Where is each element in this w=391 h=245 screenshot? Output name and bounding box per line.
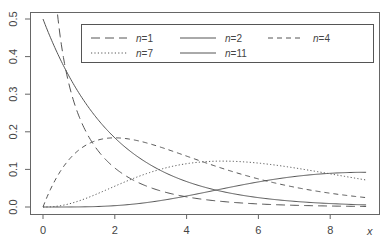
- curve-n-11: [43, 172, 366, 207]
- legend-label-n-4: n=4: [313, 33, 330, 44]
- x-tick-label: 2: [112, 224, 118, 236]
- x-axis: 02468: [40, 214, 333, 236]
- legend-label-n-7: n=7: [136, 48, 153, 59]
- legend-label-n-1: n=1: [136, 33, 153, 44]
- x-axis-label: x: [366, 225, 373, 237]
- y-tick-label: 0.5: [7, 11, 19, 26]
- y-axis: 0.00.10.20.30.40.5: [7, 11, 30, 214]
- y-tick-label: 0.0: [7, 199, 19, 214]
- y-tick-label: 0.3: [7, 87, 19, 102]
- chi-square-density-chart: 0.00.10.20.30.40.5 02468 n=1n=2n=4n=7n=1…: [0, 0, 391, 245]
- curve-n-4: [43, 138, 366, 207]
- legend-label-n-11: n=11: [225, 48, 247, 59]
- x-tick-label: 4: [184, 224, 190, 236]
- legend-label-n-2: n=2: [225, 33, 242, 44]
- y-tick-label: 0.1: [7, 162, 19, 177]
- legend: n=1n=2n=4n=7n=11: [82, 25, 374, 63]
- curve-n-7: [43, 161, 366, 207]
- x-tick-label: 6: [255, 224, 261, 236]
- y-tick-label: 0.4: [7, 49, 19, 64]
- x-tick-label: 0: [40, 224, 46, 236]
- x-tick-label: 8: [327, 224, 333, 236]
- y-tick-label: 0.2: [7, 124, 19, 139]
